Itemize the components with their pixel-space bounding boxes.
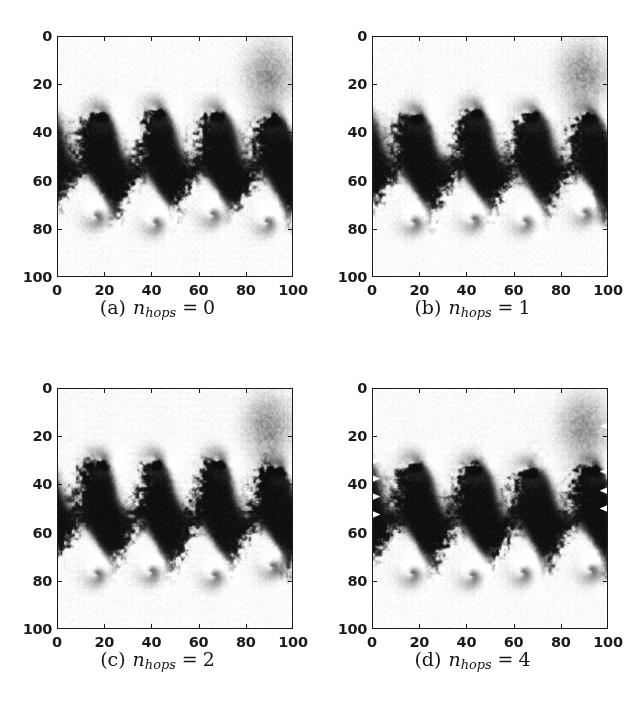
caption-label: (b): [414, 296, 441, 318]
y-tick-label: 60: [347, 173, 367, 189]
panel-caption-a: (a)nhops=0: [0, 296, 315, 320]
caption-value: 4: [519, 648, 531, 670]
y-tick-label: 0: [357, 28, 367, 44]
y-tick-label: 60: [32, 525, 52, 541]
plot-axes: [57, 388, 293, 629]
y-tick-label: 20: [347, 76, 367, 92]
y-tick-label: 40: [347, 124, 367, 140]
caption-equals: =: [182, 648, 198, 670]
caption-variable: n: [133, 648, 145, 670]
y-tick-label: 20: [32, 76, 52, 92]
caption-value: 2: [203, 648, 215, 670]
simulation-field: [373, 37, 607, 276]
y-tick-label: 100: [338, 621, 367, 637]
plot-axes: [372, 36, 608, 277]
simulation-field: [58, 389, 292, 628]
caption-subscript: hops: [461, 305, 492, 320]
y-tick-label: 60: [32, 173, 52, 189]
caption-variable: n: [448, 296, 460, 318]
caption-variable: n: [448, 648, 460, 670]
y-tick-label: 0: [42, 28, 52, 44]
caption-label: (d): [414, 648, 441, 670]
y-tick-label: 20: [347, 428, 367, 444]
caption-subscript: hops: [461, 657, 492, 672]
y-tick-label: 100: [23, 621, 52, 637]
caption-label: (a): [100, 296, 126, 318]
caption-value: 1: [519, 296, 531, 318]
y-tick-label: 40: [32, 124, 52, 140]
panel-caption-b: (b)nhops=1: [315, 296, 630, 320]
y-tick-label: 40: [347, 476, 367, 492]
scalar-field-canvas-b: [373, 37, 607, 276]
caption-subscript: hops: [145, 657, 176, 672]
y-tick-label: 100: [338, 269, 367, 285]
caption-label: (c): [100, 648, 125, 670]
scalar-field-canvas-d: [373, 389, 607, 628]
y-tick-label: 20: [32, 428, 52, 444]
y-tick-label: 80: [32, 221, 52, 237]
y-tick-label: 0: [42, 380, 52, 396]
figure-grid: 020406080100020406080100 (a)nhops=0 0204…: [0, 0, 630, 704]
y-tick-label: 100: [23, 269, 52, 285]
caption-subscript: hops: [145, 305, 176, 320]
y-tick-label: 40: [32, 476, 52, 492]
simulation-field: [58, 37, 292, 276]
y-tick-label: 0: [357, 380, 367, 396]
simulation-field: [373, 389, 607, 628]
scalar-field-canvas-c: [58, 389, 292, 628]
panel-caption-d: (d)nhops=4: [315, 648, 630, 672]
scalar-field-canvas-a: [58, 37, 292, 276]
caption-equals: =: [182, 296, 198, 318]
panel-caption-c: (c)nhops=2: [0, 648, 315, 672]
caption-variable: n: [133, 296, 145, 318]
plot-axes: [372, 388, 608, 629]
figure-panel-c: 020406080100020406080100 (c)nhops=2: [0, 352, 315, 704]
plot-axes: [57, 36, 293, 277]
figure-panel-a: 020406080100020406080100 (a)nhops=0: [0, 0, 315, 352]
figure-panel-b: 020406080100020406080100 (b)nhops=1: [315, 0, 630, 352]
figure-panel-d: 020406080100020406080100 (d)nhops=4: [315, 352, 630, 704]
y-tick-label: 80: [32, 573, 52, 589]
caption-value: 0: [203, 296, 215, 318]
y-tick-label: 60: [347, 525, 367, 541]
y-tick-label: 80: [347, 221, 367, 237]
caption-equals: =: [498, 296, 514, 318]
caption-equals: =: [498, 648, 514, 670]
y-tick-label: 80: [347, 573, 367, 589]
